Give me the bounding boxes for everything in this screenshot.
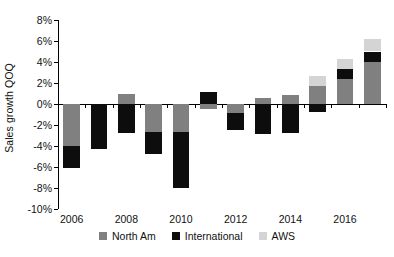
x-tick-mark (195, 104, 196, 108)
x-tick-label: 2014 (279, 213, 302, 225)
bar-segment-international (118, 104, 135, 133)
bar-group (227, 20, 244, 209)
legend-label: AWS (272, 230, 296, 242)
legend-item[interactable]: North Am (99, 230, 156, 242)
chart-legend: North AmInternationalAWS (0, 230, 394, 242)
bar-segment-international (337, 69, 354, 78)
y-tick-mark (54, 83, 58, 84)
y-tick-label: -8% (33, 182, 52, 194)
y-axis-title-label: Sales growth QOQ (3, 63, 15, 153)
bar-segment-aws (309, 76, 326, 87)
y-tick-label: -10% (27, 203, 52, 215)
bar-group (337, 20, 354, 209)
bar-segment-international (145, 132, 162, 154)
bar-segment-international (255, 104, 272, 134)
y-tick-mark (54, 188, 58, 189)
y-tick-label: 8% (37, 14, 52, 26)
bar-segment-north-am (227, 104, 244, 113)
y-tick-label: 2% (37, 77, 52, 89)
x-tick-label: 2016 (333, 213, 356, 225)
legend-label: International (185, 230, 243, 242)
bar-segment-north-am (145, 104, 162, 132)
legend-swatch-icon (259, 232, 267, 240)
bar-group (118, 20, 135, 209)
legend-label: North Am (112, 230, 156, 242)
bar-segment-international (91, 104, 108, 149)
stacked-bar-chart: Sales growth QOQ 8%6%4%2%0%-2%-4%-6%-8%-… (0, 0, 394, 257)
x-tick-label: 2012 (224, 213, 247, 225)
x-tick-label: 2008 (115, 213, 138, 225)
bar-segment-north-am (118, 94, 135, 105)
y-tick-label: -4% (33, 140, 52, 152)
y-tick-mark (54, 167, 58, 168)
x-tick-mark (359, 104, 360, 108)
bar-segment-north-am (173, 104, 190, 132)
x-tick-mark (304, 104, 305, 108)
x-tick-mark (331, 104, 332, 108)
x-tick-mark (58, 104, 59, 108)
bar-segment-north-am (337, 79, 354, 104)
bar-group (63, 20, 80, 209)
y-axis-title: Sales growth QOQ (0, 0, 18, 215)
bar-segment-international (227, 113, 244, 130)
bar-group (255, 20, 272, 209)
x-tick-mark (386, 104, 387, 108)
x-tick-mark (249, 104, 250, 108)
y-axis-line (58, 20, 59, 209)
bar-group (364, 20, 381, 209)
legend-item[interactable]: International (172, 230, 243, 242)
bar-segment-aws (364, 39, 381, 52)
x-tick-mark (140, 104, 141, 108)
y-tick-label: 6% (37, 35, 52, 47)
bar-segment-north-am (309, 86, 326, 104)
x-tick-mark (222, 104, 223, 108)
bar-segment-international (63, 146, 80, 168)
y-tick-mark (54, 125, 58, 126)
y-tick-label: -6% (33, 161, 52, 173)
bar-group (282, 20, 299, 209)
bar-group (145, 20, 162, 209)
x-tick-mark (277, 104, 278, 108)
x-tick-mark (113, 104, 114, 108)
x-tick-label: 2010 (169, 213, 192, 225)
y-tick-label: 4% (37, 56, 52, 68)
bar-segment-north-am (63, 104, 80, 146)
legend-item[interactable]: AWS (259, 230, 296, 242)
bar-segment-international (364, 52, 381, 63)
x-tick-label: 2006 (60, 213, 83, 225)
plot-area: 8%6%4%2%0%-2%-4%-6%-8%-10% 2006200820102… (58, 20, 386, 209)
bar-segment-north-am (364, 62, 381, 104)
bar-segment-aws (337, 59, 354, 70)
bar-segment-international (200, 92, 217, 104)
y-tick-mark (54, 209, 58, 210)
y-tick-label: -2% (33, 119, 52, 131)
bar-group (309, 20, 326, 209)
y-tick-mark (54, 20, 58, 21)
y-tick-mark (54, 41, 58, 42)
bar-segment-north-am (200, 104, 217, 109)
bar-segment-international (309, 104, 326, 112)
y-tick-mark (54, 146, 58, 147)
bar-group (173, 20, 190, 209)
x-tick-mark (85, 104, 86, 108)
bar-group (91, 20, 108, 209)
bar-segment-north-am (282, 95, 299, 104)
x-tick-mark (167, 104, 168, 108)
y-tick-mark (54, 62, 58, 63)
bar-group (200, 20, 217, 209)
bar-segment-international (282, 104, 299, 133)
bar-segment-international (173, 132, 190, 188)
legend-swatch-icon (99, 232, 107, 240)
legend-swatch-icon (172, 232, 180, 240)
y-tick-label: 0% (37, 98, 52, 110)
